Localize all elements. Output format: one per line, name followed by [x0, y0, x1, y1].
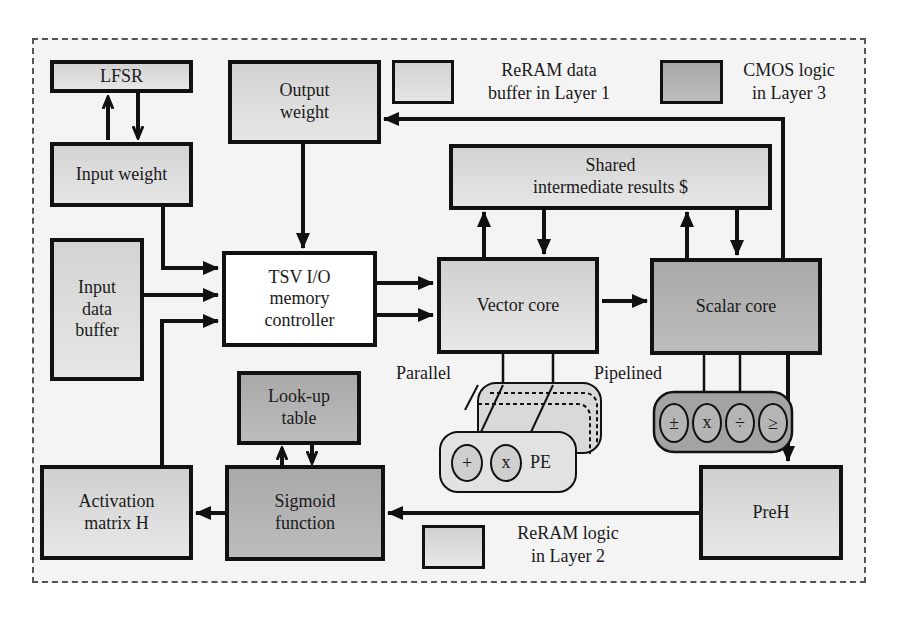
input-weight-label: Input weight — [76, 164, 168, 186]
input-data-buffer-block: Input data buffer — [50, 238, 144, 381]
activation-matrix-label: Activation matrix H — [79, 491, 155, 534]
scalar-op-plusminus-icon: ± — [659, 403, 689, 443]
activation-matrix-block: Activation matrix H — [40, 465, 193, 560]
legend-label-reram-buffer: ReRAM data buffer in Layer 1 — [478, 59, 620, 104]
sigmoid-block: Sigmoid function — [225, 465, 385, 561]
output-weight-block: Output weight — [228, 60, 381, 144]
input-data-buffer-label: Input data buffer — [75, 277, 119, 342]
shared-results-label: Shared intermediate results $ — [533, 155, 688, 198]
parallel-label: Parallel — [396, 362, 451, 385]
tsv-controller-label: TSV I/O memory controller — [265, 267, 335, 332]
lfsr-block: LFSR — [50, 60, 193, 93]
legend-label-cmos-logic: CMOS logic in Layer 3 — [734, 59, 844, 104]
vector-core-label: Vector core — [477, 295, 559, 317]
legend-swatch-reram-buffer — [392, 60, 454, 104]
legend-label-reram-logic: ReRAM logic in Layer 2 — [508, 522, 628, 567]
scalar-op-multiply-icon: x — [692, 403, 722, 443]
scalar-core-label: Scalar core — [696, 296, 776, 318]
scalar-op-compare-icon: ≥ — [758, 403, 788, 443]
input-weight-block: Input weight — [50, 142, 193, 207]
output-weight-label: Output weight — [279, 80, 329, 123]
vector-core-block: Vector core — [437, 257, 599, 354]
scalar-op-divide-icon: ÷ — [725, 403, 755, 443]
shared-results-block: Shared intermediate results $ — [449, 144, 772, 210]
lfsr-label: LFSR — [100, 66, 143, 88]
pe-op-multiply-icon: x — [490, 444, 522, 482]
pipelined-label: Pipelined — [594, 362, 662, 385]
pe-label: PE — [530, 451, 551, 474]
preh-block: PreH — [699, 465, 843, 560]
preh-label: PreH — [753, 502, 790, 524]
tsv-controller-block: TSV I/O memory controller — [222, 251, 377, 347]
pe-op-add-icon: + — [451, 444, 483, 482]
legend-swatch-reram-logic — [422, 525, 485, 569]
sigmoid-label: Sigmoid function — [274, 491, 335, 534]
scalar-core-block: Scalar core — [650, 258, 822, 355]
lookup-table-block: Look-up table — [237, 371, 361, 445]
lookup-table-label: Look-up table — [268, 386, 330, 429]
legend-swatch-cmos-logic — [660, 60, 723, 104]
architecture-diagram: LFSR Output weight Input weight Shared i… — [0, 0, 898, 618]
